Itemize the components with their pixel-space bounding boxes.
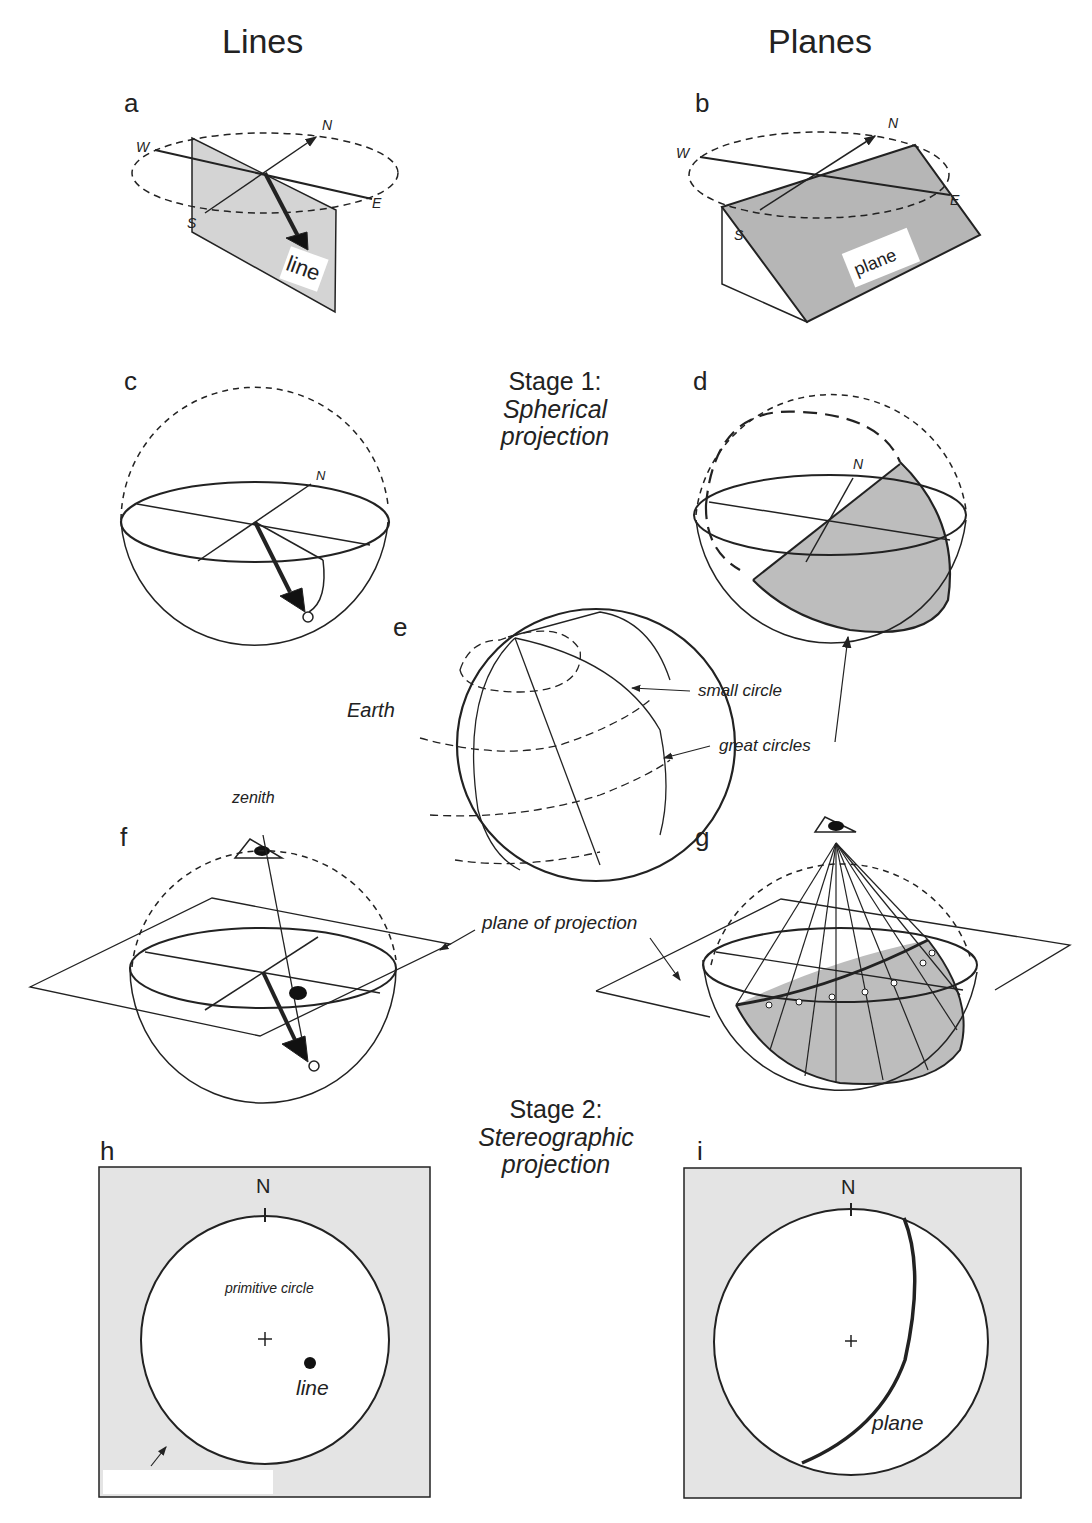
panel-e-small-circle-label: small circle [698,681,782,700]
panel-c-hemisphere [121,387,389,645]
panel-h-primitive-circle-label: primitive circle [224,1280,314,1296]
diagram-canvas: N E S W line N E S W plane N [0,0,1092,1523]
panel-f-projection [30,835,475,1103]
panel-a-compass-e: E [372,195,382,211]
panel-b-plane-block [689,132,980,322]
panel-h-line-label: line [296,1376,329,1399]
panel-a-compass-s: S [187,215,197,231]
panel-i-stereonet [684,1168,1021,1498]
panel-h-north-label: N [256,1175,270,1197]
panel-b-compass-w: W [676,145,691,161]
panel-i-north-label: N [841,1176,855,1198]
panel-b-compass-e: E [950,192,960,208]
panel-a-line-block [132,133,398,312]
panel-f-zenith-label: zenith [231,789,275,806]
panel-g-projection [596,817,1070,1090]
panel-e-earth-label: Earth [347,699,395,721]
panel-a-compass-w: W [136,139,151,155]
panel-i-plane-label: plane [871,1411,923,1434]
panel-c-compass-n: N [316,468,326,483]
panel-h-stereonet [99,1167,430,1497]
panel-b-compass-s: S [734,227,744,243]
panel-a-compass-n: N [322,117,333,133]
panel-e-great-circles-label: great circles [719,736,811,755]
panel-e-earth-globe [420,609,735,881]
panel-f-plane-of-projection-label: plane of projection [481,912,637,933]
panel-b-compass-n: N [888,115,899,131]
panel-d-compass-n: N [853,456,864,472]
